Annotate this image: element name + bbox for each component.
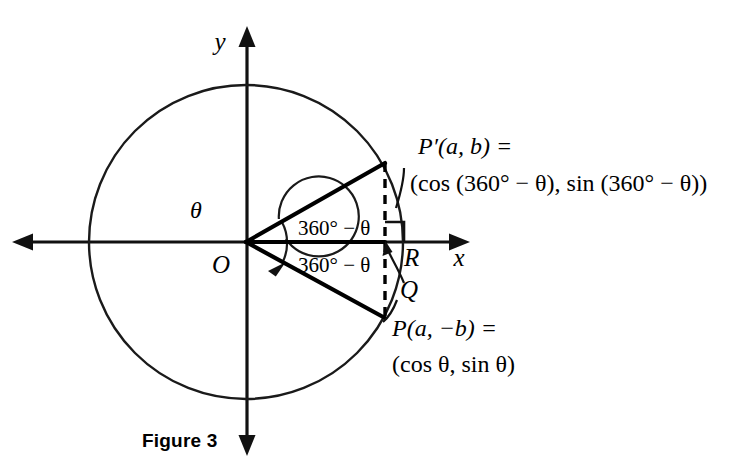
y-axis-bottom-arrowhead (239, 435, 256, 456)
x-axis-label: x (452, 244, 464, 271)
angle-label-upper: 360° − θ (298, 216, 370, 240)
p-coords-label: (cos θ, sin θ) (392, 351, 515, 377)
angle-arc-lower (283, 242, 287, 262)
y-axis-top-arrowhead (239, 26, 256, 47)
point-q-label: Q (400, 276, 418, 303)
axes-group (12, 26, 470, 456)
y-axis-label: y (211, 28, 226, 55)
point-r-label: R (403, 244, 419, 271)
figure-container: y x O θ 360° − θ 360° − θ R Q P′(a, b) =… (0, 0, 754, 468)
theta-angle-label: θ (190, 197, 202, 223)
p-prime-leader-curve (396, 168, 404, 208)
unit-circle-diagram: y x O θ 360° − θ 360° − θ R Q P′(a, b) =… (0, 0, 754, 468)
p-name-label: P(a, −b) = (391, 315, 497, 341)
origin-label: O (212, 251, 230, 278)
angle-label-lower: 360° − θ (298, 253, 370, 277)
figure-caption: Figure 3 (142, 430, 218, 451)
p-prime-coords-label: (cos (360° − θ), sin (360° − θ)) (410, 170, 707, 196)
x-axis-left-arrowhead (12, 234, 33, 251)
p-prime-name-label: P′(a, b) = (417, 133, 512, 159)
radii-group (246, 163, 385, 318)
